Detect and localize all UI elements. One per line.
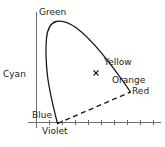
- chromaticity-diagram-figure: Green Cyan Blue Violet Yellow Orange Red: [0, 0, 165, 147]
- purple-line-dashed: [58, 92, 131, 124]
- label-blue: Blue: [32, 110, 52, 120]
- label-orange: Orange: [112, 75, 145, 85]
- label-yellow: Yellow: [104, 57, 132, 67]
- label-green: Green: [39, 7, 66, 17]
- label-violet: Violet: [42, 126, 68, 136]
- spectral-locus-curve: [46, 21, 131, 123]
- cross-marker-icon: [94, 71, 99, 76]
- label-cyan: Cyan: [3, 69, 26, 79]
- label-red: Red: [132, 86, 149, 96]
